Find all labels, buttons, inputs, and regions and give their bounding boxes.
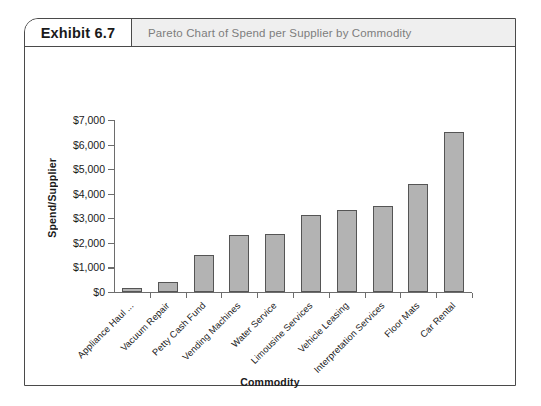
x-axis-tick — [329, 293, 330, 298]
y-axis-tick — [108, 218, 114, 219]
x-axis-tick — [365, 293, 366, 298]
y-axis-tick — [108, 267, 114, 268]
bar — [122, 288, 142, 292]
x-axis-tick — [150, 293, 151, 298]
x-axis-tick — [186, 293, 187, 298]
x-axis-tick — [436, 293, 437, 298]
y-axis-tick-label: $4,000 — [29, 188, 105, 200]
exhibit-frame: Exhibit 6.7 Pareto Chart of Spend per Su… — [24, 18, 516, 386]
y-axis-tick-label: $2,000 — [29, 237, 105, 249]
y-axis-tick — [108, 292, 114, 293]
x-axis-tick — [293, 293, 294, 298]
y-axis-tick-label: $0 — [29, 286, 105, 298]
bar — [301, 215, 321, 292]
y-axis-tick — [108, 169, 114, 170]
chart-area: Spend/Supplier Commodity $7,000$6,000$5,… — [25, 46, 515, 385]
bar — [408, 184, 428, 292]
y-axis-tick — [108, 194, 114, 195]
y-axis-tick-label: $5,000 — [29, 163, 105, 175]
bar — [229, 235, 249, 292]
exhibit-number: Exhibit 6.7 — [25, 19, 132, 46]
y-axis-tick — [108, 145, 114, 146]
exhibit-caption: Pareto Chart of Spend per Supplier by Co… — [132, 19, 515, 46]
y-axis-tick-label: $6,000 — [29, 139, 105, 151]
bar — [444, 132, 464, 292]
bar — [337, 210, 357, 292]
bar — [373, 206, 393, 292]
y-axis-tick-label: $3,000 — [29, 212, 105, 224]
exhibit-header: Exhibit 6.7 Pareto Chart of Spend per Su… — [25, 19, 515, 47]
x-axis-tick — [472, 293, 473, 298]
y-axis-tick — [108, 243, 114, 244]
y-axis-tick — [108, 120, 114, 121]
bar — [265, 234, 285, 292]
x-axis-tick — [400, 293, 401, 298]
y-axis-tick-label: $1,000 — [29, 261, 105, 273]
y-axis-line — [114, 120, 115, 293]
x-axis-tick — [257, 293, 258, 298]
bar — [158, 282, 178, 292]
bar — [194, 255, 214, 292]
x-axis-tick — [221, 293, 222, 298]
y-axis-tick-label: $7,000 — [29, 114, 105, 126]
